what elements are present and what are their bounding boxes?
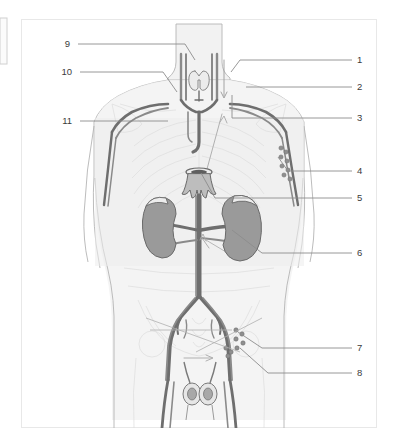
label-5: 5 [357,192,362,203]
label-3: 3 [357,112,362,123]
label-1: 1 [357,54,362,65]
label-9: 9 [65,38,70,49]
label-7: 7 [357,342,362,353]
label-6: 6 [357,247,362,258]
lymphatic-system-diagram: 9 10 11 1 2 3 4 5 6 7 8 [0,0,398,447]
anatomical-figure: 9 10 11 1 2 3 4 5 6 7 8 [0,0,398,447]
label-2: 2 [357,81,362,92]
label-4: 4 [357,165,362,176]
label-8: 8 [357,367,362,378]
left-edge-artifact [0,18,7,64]
label-11: 11 [62,115,72,126]
label-10: 10 [61,66,72,77]
